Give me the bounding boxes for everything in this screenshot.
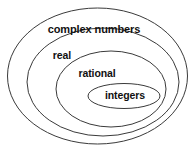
set-label-complex-numbers: complex numbers <box>48 23 141 35</box>
set-label-real: real <box>53 49 71 61</box>
number-sets-venn-diagram: complex numbers real rational integers <box>0 0 195 150</box>
set-ellipse-real <box>27 28 179 136</box>
venn-diagram-canvas: complex numbers real rational integers <box>0 0 195 150</box>
set-label-integers: integers <box>105 89 145 101</box>
set-label-rational: rational <box>78 67 115 79</box>
